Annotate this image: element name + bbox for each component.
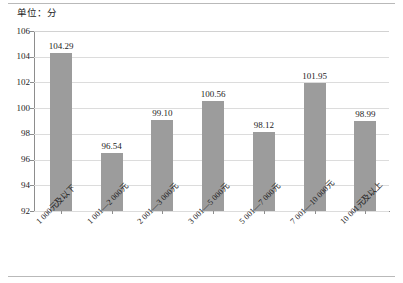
- bar-value-label: 100.56: [190, 89, 236, 99]
- bar-value-label: 101.95: [292, 71, 338, 81]
- x-axis-tick-mark: [264, 211, 265, 214]
- y-axis-tick-label: 94: [4, 181, 30, 190]
- y-axis-tick-label: 102: [4, 78, 30, 87]
- x-axis-tick-mark: [365, 211, 366, 214]
- y-axis-tick-label: 100: [4, 104, 30, 113]
- gridline: [34, 211, 389, 212]
- bar-value-label: 98.12: [241, 120, 287, 130]
- bar-value-label: 96.54: [89, 141, 135, 151]
- y-axis-tick-label: 96: [4, 155, 30, 164]
- y-axis-tick-mark: [30, 31, 34, 32]
- x-axis-tick-mark: [315, 211, 316, 214]
- y-axis-tick-labels: 10610410210098969492: [0, 0, 30, 283]
- y-axis-tick-mark: [30, 134, 34, 135]
- frame-rule-top: [8, 3, 395, 4]
- gridline: [34, 31, 389, 32]
- bar-value-label: 98.99: [342, 109, 388, 119]
- gridline: [34, 57, 389, 58]
- bar-value-label: 104.29: [38, 41, 84, 51]
- gridline: [34, 82, 389, 83]
- x-axis-tick-mark: [162, 211, 163, 214]
- y-axis-tick-mark: [30, 108, 34, 109]
- frame-rule-bottom: [8, 276, 395, 277]
- x-axis-tick-mark: [61, 211, 62, 214]
- x-axis-tick-mark: [213, 211, 214, 214]
- plot-area: [34, 31, 389, 211]
- y-axis-tick-label: 98: [4, 129, 30, 138]
- bar-value-label: 99.10: [139, 108, 185, 118]
- y-axis-tick-mark: [30, 82, 34, 83]
- y-axis-tick-label: 92: [4, 207, 30, 216]
- y-axis-tick-mark: [30, 57, 34, 58]
- bar-chart-figure: 单位：分 10610410210098969492 104.291 000元及以…: [0, 0, 403, 283]
- y-axis-tick-label: 106: [4, 27, 30, 36]
- y-axis-tick-mark: [30, 160, 34, 161]
- y-axis-tick-mark: [30, 211, 34, 212]
- x-axis-tick-mark: [112, 211, 113, 214]
- y-axis-tick-label: 104: [4, 52, 30, 61]
- y-axis-tick-mark: [30, 185, 34, 186]
